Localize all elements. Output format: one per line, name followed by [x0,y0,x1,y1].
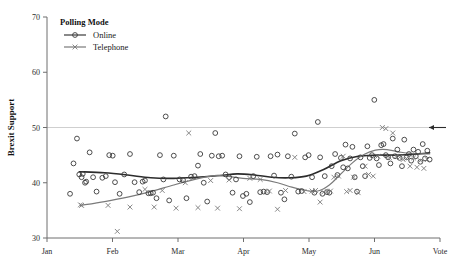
point-online [209,153,214,158]
point-online [87,150,92,155]
series-online [68,97,432,204]
point-online [198,152,203,157]
point-telephone [283,188,288,193]
point-online [372,97,377,102]
point-online [158,153,163,158]
point-online [196,163,201,168]
point-online [333,152,338,157]
point-telephone [215,206,220,211]
x-tick-label: May [302,247,317,256]
point-online [411,147,416,152]
point-telephone [208,178,213,183]
point-telephone [383,126,388,131]
point-online [377,163,382,168]
point-telephone [174,206,179,211]
point-online [292,131,297,136]
point-online [400,164,405,169]
y-tick-label: 70 [32,13,40,22]
point-online [420,142,425,147]
point-telephone [336,174,341,179]
point-online [68,191,73,196]
point-online [71,161,76,166]
x-tick-label: Feb [107,247,119,256]
point-telephone [227,178,232,183]
point-online [230,190,235,195]
legend-entry-online[interactable]: Online [64,30,116,40]
y-tick-label: 50 [32,124,40,133]
point-online [132,180,137,185]
point-online [365,144,370,149]
point-telephone [152,205,157,210]
point-telephone [318,200,323,205]
point-online [350,144,355,149]
point-online [110,153,115,158]
point-online [402,137,407,142]
point-telephone [371,174,376,179]
point-online [254,154,259,159]
point-online [318,155,323,160]
y-tick-label: 60 [32,68,40,77]
point-online [237,154,242,159]
data-points [68,97,432,233]
x-tick-label: Apr [237,247,250,256]
point-online [322,174,327,179]
point-online [285,154,290,159]
point-online [94,189,99,194]
point-online [184,196,189,201]
legend-entry-telephone[interactable]: Telephone [64,42,129,52]
point-online [247,200,252,205]
point-telephone [106,203,111,208]
point-online [137,190,142,195]
point-online [341,165,346,170]
legend-label: Online [93,30,116,40]
point-online [390,136,395,141]
point-telephone [128,205,133,210]
point-online [205,199,210,204]
legend-label: Telephone [93,42,129,52]
legend: Polling ModeOnlineTelephone [60,17,129,52]
x-tick-label: Vote [433,247,448,256]
x-tick-label: Mar [171,247,185,256]
x-tick-label: Jan [42,247,53,256]
point-online [310,175,315,180]
point-online [91,175,96,180]
y-axis-title: Brexit Support [6,99,16,157]
point-online [343,142,348,147]
point-online [128,152,133,157]
point-telephone [363,164,368,169]
y-tick-label: 40 [32,179,40,188]
point-online [154,196,159,201]
point-telephone [348,188,353,193]
point-online [163,114,168,119]
point-online [167,198,172,203]
point-telephone [415,165,420,170]
point-telephone [115,229,120,234]
point-online [268,154,273,159]
point-telephone [237,206,242,211]
legend-title: Polling Mode [60,17,109,27]
point-online [213,131,218,136]
point-telephone [186,131,191,136]
point-telephone [275,207,280,212]
point-online [75,136,80,141]
point-telephone [292,155,297,160]
point-online [220,153,225,158]
point-telephone [421,166,426,171]
vote-arrow-annotation [429,125,446,130]
point-telephone [356,190,361,195]
point-telephone [196,205,201,210]
point-online [113,180,118,185]
point-telephone [143,187,148,192]
point-online [279,190,284,195]
point-online [315,120,320,125]
point-telephone [408,164,413,169]
point-telephone [390,131,395,136]
point-online [275,152,280,157]
point-online [171,153,176,158]
y-tick-label: 30 [32,234,40,243]
point-online [84,179,89,184]
point-online [201,180,206,185]
point-telephone [344,189,349,194]
chart-figure: 3040506070JanFebMarAprMayJunVote Polling… [0,0,452,270]
point-online [388,161,393,166]
